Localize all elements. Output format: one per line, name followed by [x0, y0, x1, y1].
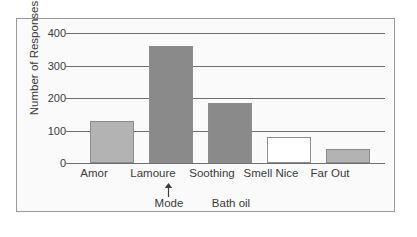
mode-annotation-label: Mode	[139, 197, 199, 209]
gridline-300	[72, 66, 385, 67]
bar-amor	[90, 121, 134, 163]
y-tick-label: 400	[48, 28, 66, 39]
bar-lamoure	[149, 46, 193, 163]
x-axis-line	[72, 163, 385, 164]
y-tick-label: 100	[48, 126, 66, 137]
x-tick-label-amor: Amor	[60, 168, 128, 180]
bar-smell-nice	[267, 137, 311, 163]
bar-far-out	[326, 149, 370, 163]
mode-up-arrow-icon	[163, 183, 174, 197]
tick-mark-200	[66, 98, 72, 99]
tick-mark-100	[66, 131, 72, 132]
tick-mark-300	[66, 66, 72, 67]
gridline-200	[72, 98, 385, 99]
bar-chart-figure: Number of Responses 400 300 200 100 0 Am…	[0, 0, 417, 237]
x-tick-label-far-out: Far Out	[296, 168, 364, 180]
bar-soothing	[208, 103, 252, 163]
tick-mark-400	[66, 33, 72, 34]
x-tick-label-lamoure: Lamoure	[119, 168, 187, 180]
gridline-400	[72, 33, 385, 34]
y-tick-label: 200	[48, 93, 66, 104]
y-axis-tick-labels: 400 300 200 100 0	[38, 33, 66, 163]
y-tick-label: 300	[48, 61, 66, 72]
x-axis-title: Bath oil	[196, 197, 266, 209]
x-tick-label-smell-nice: Smell Nice	[237, 168, 305, 180]
x-tick-label-soothing: Soothing	[178, 168, 246, 180]
plot-area	[72, 33, 385, 163]
